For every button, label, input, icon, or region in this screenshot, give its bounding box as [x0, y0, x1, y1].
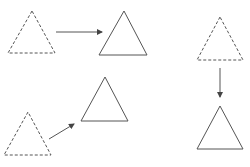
arrow-diagonal-icon [49, 124, 74, 139]
shapes-layer [4, 11, 243, 155]
source-top-left-triangle [8, 11, 55, 53]
source-bottom-left-triangle [4, 112, 51, 155]
target-top-middle-triangle [99, 11, 147, 55]
arrows-layer [49, 32, 220, 139]
diagram-canvas [0, 0, 250, 167]
target-right-bottom-triangle [197, 106, 243, 149]
target-bottom-middle-triangle [81, 77, 128, 121]
source-right-top-triangle [197, 17, 243, 60]
